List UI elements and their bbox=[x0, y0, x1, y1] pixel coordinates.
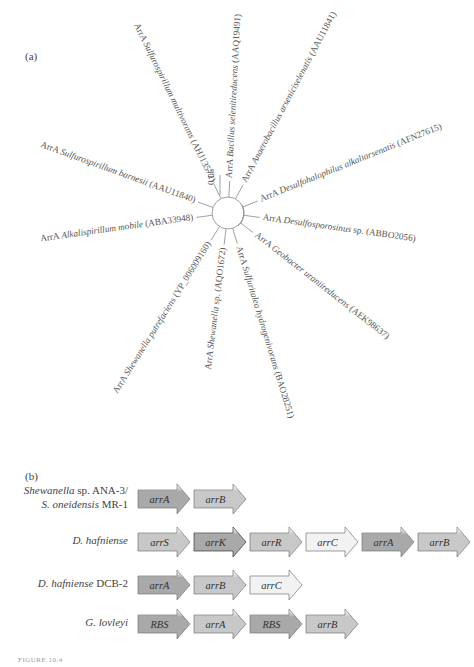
phylogenetic-tree: ArrA Bacillus selenitireducens (AAQ19491… bbox=[0, 0, 474, 440]
tree-branch bbox=[196, 215, 212, 217]
tree-leaf-label: ArrA Geobacter uraniireducens (AEK98637) bbox=[253, 230, 391, 341]
gene-label: arrK bbox=[205, 537, 226, 548]
gene-row: arrAarrBarrC bbox=[0, 568, 474, 602]
gene-row: arrSarrKarrRarrCarrAarrB bbox=[0, 525, 474, 559]
figure-caption: FIGURE 10.4 bbox=[18, 656, 63, 664]
gene-label: RBS bbox=[149, 619, 169, 630]
gene-row: arrAarrB bbox=[0, 482, 474, 516]
tree-branch bbox=[241, 223, 254, 233]
gene-label: arrB bbox=[430, 537, 450, 548]
scale-bar-label: 0.05 bbox=[206, 169, 216, 185]
gene-label: arrA bbox=[150, 494, 170, 505]
gene-label: arrA bbox=[374, 537, 394, 548]
tree-branch bbox=[236, 185, 244, 199]
tree-branch bbox=[243, 201, 258, 207]
panel-b-label: (b) bbox=[25, 470, 38, 482]
tree-branch bbox=[233, 228, 238, 243]
tree-leaf-label: ArrA Sulfurospirillum barnesii (AAU11840… bbox=[39, 139, 197, 205]
gene-label: arrC bbox=[261, 580, 282, 591]
tree-leaf-label: ArrA Alkalispirillum mobile (ABA33948) bbox=[40, 212, 194, 243]
tree-leaf-label: ArrA Desulfosporosinus sp. (ABBO2056) bbox=[262, 212, 416, 243]
tree-branch bbox=[211, 227, 219, 241]
tree-branch bbox=[229, 181, 230, 197]
gene-label: arrB bbox=[318, 619, 338, 630]
gene-row: RBSarrARBSarrB bbox=[0, 607, 474, 641]
tree-leaf-label: ArrA Sulfuritalea hydrogenivorans (BAO28… bbox=[234, 245, 296, 420]
gene-label: RBS bbox=[261, 619, 281, 630]
tree-leaf-label: ArrA Sulfurospirillum multivorans (AHJ13… bbox=[132, 21, 218, 183]
gene-label: arrB bbox=[206, 580, 226, 591]
tree-branch bbox=[198, 202, 213, 207]
tree-branch bbox=[244, 215, 260, 217]
tree-leaf-label: ArrA Shewanella putrefaciens (YP_0060091… bbox=[111, 240, 213, 395]
tree-branch bbox=[224, 229, 226, 245]
tree-root-ring bbox=[212, 197, 244, 229]
tree-leaf-label: ArrA Desulfohalophilus alkaliarsenatis (… bbox=[258, 121, 443, 203]
tree-leaf-label: ArrA Bacillus selenitireducens (AAQ19491… bbox=[224, 14, 243, 179]
gene-label: arrS bbox=[150, 537, 169, 548]
gene-label: arrC bbox=[317, 537, 338, 548]
tree-leaf-label: ArrA Shewanella sp. (AQO1672) bbox=[203, 247, 228, 370]
gene-label: arrB bbox=[206, 494, 226, 505]
gene-label: arrA bbox=[206, 619, 226, 630]
gene-label: arrA bbox=[150, 580, 170, 591]
gene-label: arrR bbox=[262, 537, 282, 548]
tree-leaf-label: ArrA Anaerobacillus arseniciselenatis (A… bbox=[239, 10, 338, 184]
